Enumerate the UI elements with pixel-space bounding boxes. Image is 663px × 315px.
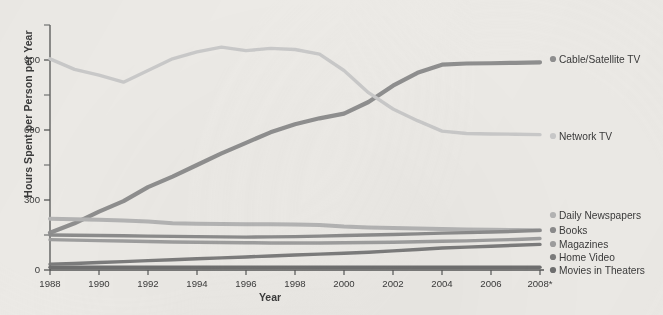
legend-label: Cable/Satellite TV (559, 54, 641, 65)
series-line (50, 219, 540, 231)
series-line (50, 239, 540, 243)
y-tick-label: 0 (35, 264, 40, 275)
legend-label: Network TV (559, 131, 612, 142)
x-tick-label: 1988 (39, 278, 60, 289)
legend-marker (550, 133, 556, 139)
legend-marker (550, 227, 556, 233)
legend-label: Home Video (559, 252, 615, 263)
legend-group: Cable/Satellite TVNetwork TVDaily Newspa… (550, 54, 645, 276)
legend-marker (550, 56, 556, 62)
y-tick-label: 600 (24, 124, 40, 135)
legend-marker (550, 212, 556, 218)
x-tick-label: 1996 (235, 278, 256, 289)
y-tick-label: 300 (24, 194, 40, 205)
series-line (50, 230, 540, 237)
x-tick-label: 1990 (88, 278, 109, 289)
x-tick-label: 2002 (382, 278, 403, 289)
x-tick-label: 1998 (284, 278, 305, 289)
line-chart: Hours Spent per Person per Year Year 030… (0, 0, 663, 315)
x-tick-label: 1994 (186, 278, 208, 289)
x-tick-label: 1992 (137, 278, 158, 289)
series-line (50, 47, 540, 135)
y-tick-label: 900 (24, 54, 40, 65)
legend-label: Daily Newspapers (559, 210, 641, 221)
series-line (50, 62, 540, 232)
legend-marker (550, 241, 556, 247)
x-tick-label: 2000 (333, 278, 354, 289)
x-tick-label: 2006 (480, 278, 501, 289)
plot-area: 0300600900198819901992199419961998200020… (0, 0, 663, 315)
x-tick-label: 2004 (431, 278, 453, 289)
legend-label: Books (559, 225, 587, 236)
legend-marker (550, 267, 556, 273)
series-lines-group (50, 47, 540, 267)
series-line (50, 244, 540, 264)
legend-label: Magazines (559, 239, 608, 250)
x-tick-label: 2008* (527, 278, 552, 289)
legend-label: Movies in Theaters (559, 265, 645, 276)
legend-marker (550, 254, 556, 260)
